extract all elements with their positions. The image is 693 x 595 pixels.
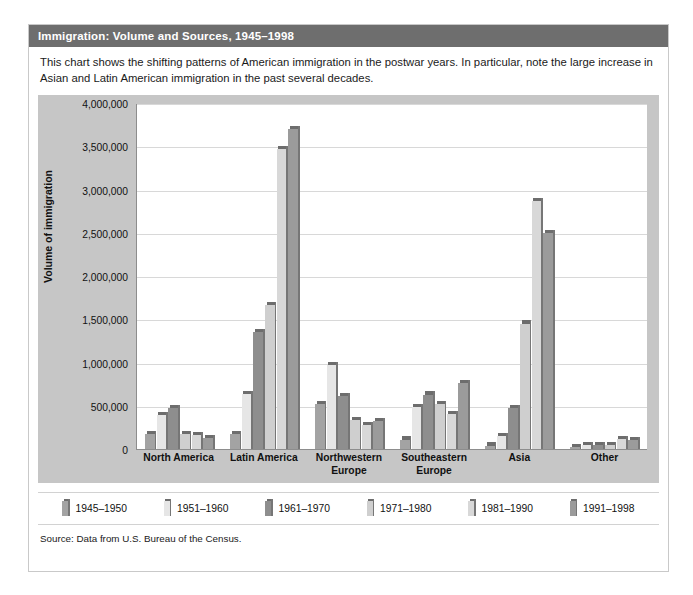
y-axis-tick: 4,000,000 [82,99,128,110]
bar-slot [400,440,411,450]
x-axis-label: Asia [477,452,562,477]
bar-slot [277,149,288,449]
figure-title-bar: Immigration: Volume and Sources, 1945–19… [29,25,668,47]
bar[interactable] [288,129,299,449]
bar[interactable] [362,425,373,449]
bar-slot [543,233,554,449]
bar[interactable] [350,420,361,449]
bar[interactable] [447,414,458,449]
legend-swatch [265,501,272,516]
bar[interactable] [315,404,326,449]
bar-slot [203,438,214,449]
bar[interactable] [570,447,581,449]
bar-slot [628,440,639,449]
bar-slot [532,201,543,449]
bar[interactable] [543,233,554,449]
bar[interactable] [508,408,519,449]
y-axis-tick: 3,000,000 [82,185,128,196]
bar-slot [315,404,326,449]
bar[interactable] [203,438,214,449]
y-axis-ticks: 0500,0001,000,0001,500,0002,000,0002,500… [56,95,132,483]
bar[interactable] [497,436,508,449]
bar[interactable] [157,415,168,449]
legend-label: 1951–1960 [177,503,229,514]
bar-group [307,104,392,449]
legend-item[interactable]: 1961–1970 [265,501,330,516]
bar[interactable] [265,305,276,449]
bar[interactable] [373,421,384,449]
bar[interactable] [605,445,616,449]
bar-slot [373,421,384,449]
bar[interactable] [168,408,179,449]
bar-slot [412,407,423,449]
bar[interactable] [593,445,604,449]
bar-slot [570,447,581,449]
figure-caption: This chart shows the shifting patterns o… [29,47,668,95]
bar[interactable] [458,383,469,449]
chart-panel: Volume of immigration 0500,0001,000,0001… [38,95,659,483]
bar[interactable] [338,396,349,449]
y-axis-tick: 500,000 [91,401,128,412]
y-axis-tick: 3,500,000 [82,142,128,153]
legend-label: 1981–1990 [481,503,533,514]
bar[interactable] [628,440,639,449]
bar[interactable] [230,434,241,449]
bar-slot [423,395,434,449]
bar[interactable] [242,394,253,449]
bar-slot [288,129,299,449]
bar-slot [168,408,179,449]
bar-slot [458,383,469,449]
legend-item[interactable]: 1981–1990 [468,501,533,516]
bar[interactable] [423,395,434,449]
legend-item[interactable]: 1951–1960 [164,501,229,516]
page-title: Immigration: Volume and Sources, 1945–19… [38,30,294,42]
chart-legend: 1945–19501951–19601961–19701971–19801981… [38,492,659,525]
bar[interactable] [617,439,628,449]
bar-groups [137,104,647,449]
bar-slot [520,324,531,449]
legend-item[interactable]: 1945–1950 [62,501,127,516]
bar-slot [435,404,446,449]
bar[interactable] [412,407,423,449]
legend-item[interactable]: 1971–1980 [367,501,432,516]
y-axis-label: Volume of immigration [42,170,54,283]
bar[interactable] [485,446,496,449]
legend-swatch [164,501,171,516]
bar[interactable] [327,365,338,449]
bar[interactable] [180,434,191,449]
bar[interactable] [435,404,446,449]
y-axis-tick: 2,500,000 [82,228,128,239]
bar-slot [242,394,253,449]
legend-label: 1971–1980 [380,503,432,514]
bar[interactable] [400,440,411,450]
bar-slot [327,365,338,449]
bar-slot [157,415,168,449]
bar-slot [447,414,458,449]
bar[interactable] [192,435,203,449]
bar-slot [338,396,349,449]
bar-slot [497,436,508,449]
bar-group [137,104,222,449]
bar-slot [582,445,593,449]
legend-item[interactable]: 1991–1998 [570,501,635,516]
bar[interactable] [520,324,531,449]
bar[interactable] [582,445,593,449]
bar-slot [180,434,191,449]
bar[interactable] [145,434,156,449]
bar-slot [362,425,373,449]
y-axis-tick: 2,000,000 [82,272,128,283]
bar[interactable] [253,332,264,449]
x-axis-label: North America [136,452,221,477]
bar-slot [485,446,496,449]
bar-group [222,104,307,449]
bar[interactable] [277,149,288,449]
bar-slot [145,434,156,449]
y-axis-tick: 1,500,000 [82,315,128,326]
y-axis-tick: 1,000,000 [82,358,128,369]
bar-group [477,104,562,449]
bar-slot [350,420,361,449]
x-axis-label: Other [562,452,647,477]
bar-slot [605,445,616,449]
legend-swatch [367,501,374,516]
bar[interactable] [532,201,543,449]
